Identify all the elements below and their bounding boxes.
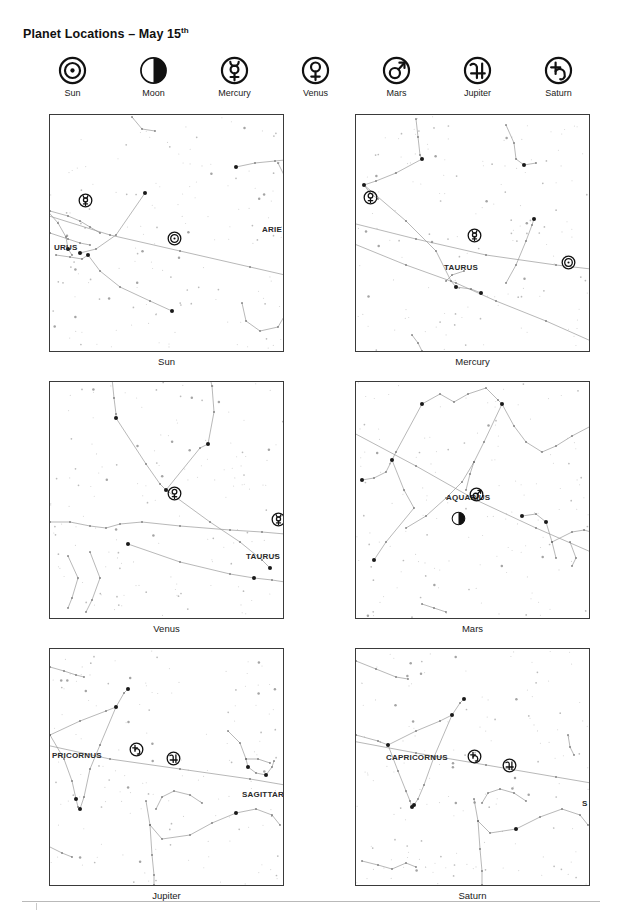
planet-marker-mercury[interactable] <box>271 512 285 528</box>
constellation-label: ARIE <box>262 225 282 234</box>
planet-marker-venus[interactable] <box>167 486 182 502</box>
planet-marker-saturn[interactable] <box>129 742 144 758</box>
panel-caption: Sun <box>49 356 284 367</box>
planet-marker-moon[interactable] <box>451 511 466 527</box>
constellation-label: TAURUS <box>444 263 478 272</box>
planet-marker-sun[interactable] <box>167 231 182 247</box>
star-chart-mars[interactable]: AQUARIUS <box>355 381 590 619</box>
constellation-label: S <box>582 799 588 808</box>
constellation-label: CAPRICORNUS <box>386 753 448 762</box>
planet-marker-saturn[interactable] <box>467 749 482 765</box>
panel-caption: Mars <box>355 623 590 634</box>
star-chart-mercury[interactable]: TAURUS <box>355 114 590 352</box>
star-chart-saturn[interactable]: CAPRICORNUSS <box>355 648 590 886</box>
panel-caption: Saturn <box>355 890 590 901</box>
planet-marker-mercury[interactable] <box>467 228 482 244</box>
planet-marker-venus[interactable] <box>363 190 378 206</box>
planet-marker-mars[interactable] <box>469 487 484 503</box>
planet-marker-jupiter[interactable] <box>166 751 181 767</box>
planet-marker-sun[interactable] <box>561 255 576 271</box>
planet-marker-mercury[interactable] <box>78 193 93 209</box>
planet-marker-jupiter[interactable] <box>502 758 517 774</box>
constellation-label: SAGITTARI <box>242 790 284 799</box>
sky-chart-grid: URUSARIESunTAURUSMercuryTAURUSVenusAQUAR… <box>0 0 622 911</box>
constellation-label: PRICORNUS <box>52 751 102 760</box>
constellation-label: URUS <box>54 243 77 252</box>
footer-divider <box>22 901 600 902</box>
star-chart-sun[interactable]: URUSARIE <box>49 114 284 352</box>
footer-tick-mark <box>36 903 37 910</box>
panel-caption: Mercury <box>355 356 590 367</box>
constellation-label: TAURUS <box>246 552 280 561</box>
star-chart-venus[interactable]: TAURUS <box>49 381 284 619</box>
panel-caption: Venus <box>49 623 284 634</box>
star-chart-jupiter[interactable]: PRICORNUSSAGITTARI <box>49 648 284 886</box>
panel-caption: Jupiter <box>49 890 284 901</box>
